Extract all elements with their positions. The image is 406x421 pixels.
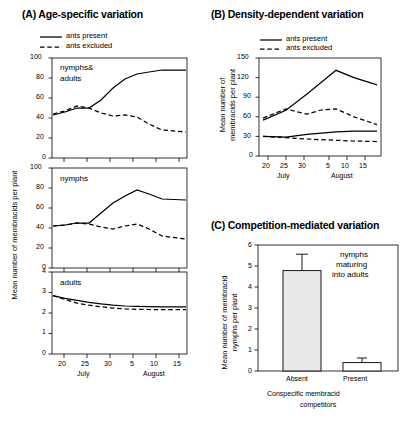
legend-dashed-swatch-b (260, 45, 282, 54)
xlabel-c-line1: Conspecific membracid (267, 390, 340, 397)
panel-a-subplot-nymphs: 100 80 60 40 20 0 nymphs (52, 168, 187, 273)
legend-label-ants-excluded: ants excluded (66, 41, 112, 50)
plot-a2 (52, 168, 187, 273)
xlabel-a-august: August (143, 370, 165, 377)
ytick-c-0: 0 (248, 367, 252, 374)
panel-a-ylabel: Mean number of membracids per plant (10, 115, 20, 355)
series-ants-present-a3 (53, 296, 186, 307)
ytick-a2-80: 80 (36, 183, 44, 190)
panel-c-plot-wrap: 6 5 4 3 2 1 0 nymphs maturing into adult… (258, 245, 398, 380)
xtick-a-25: 25 (81, 360, 89, 367)
series-ants-excluded-a2 (53, 223, 186, 239)
series-high-density-ants-excluded (263, 109, 377, 125)
xtick-b-30: 30 (298, 162, 306, 169)
xtick-a-10: 10 (150, 360, 158, 367)
series-low-density-ants-excluded (263, 136, 377, 141)
legend-solid-swatch (40, 33, 62, 42)
ytick-a1-60: 60 (36, 93, 44, 100)
panel-b-plot-wrap: 150 120 90 60 30 0 20 25 30 5 10 15 July… (259, 58, 381, 163)
xlabel-a-july: July (77, 370, 89, 377)
xtick-c-present: Present (343, 375, 367, 382)
ytick-a2-20: 20 (36, 243, 44, 250)
xtick-a-15: 15 (173, 360, 181, 367)
ytick-a1-100: 100 (30, 53, 42, 60)
ytick-b-90: 90 (243, 92, 251, 99)
panel-c-ylabel-line2: nymphs per plant (230, 265, 240, 380)
ytick-c-6: 6 (248, 241, 252, 248)
annotation-c-line1: nymphs (340, 250, 368, 260)
ytick-a3-0: 0 (42, 349, 46, 356)
annotation-c-line3: into adults (332, 270, 368, 280)
errorbar-present (357, 358, 367, 363)
series-high-density-ants-present (263, 70, 377, 120)
panel-a: (A) Age-specific variation ants present … (0, 0, 206, 421)
panel-b-ylabel-line1: Mean number of (218, 50, 228, 160)
plot-c (258, 245, 398, 380)
panel-c-title: (C) Competition-mediated variation (211, 219, 379, 231)
plot-a3 (52, 272, 187, 377)
xlabel-b-august: August (331, 172, 353, 179)
panel-a-subplot-adults: 4 3 2 1 0 adults 20 25 30 5 10 15 July A… (52, 272, 187, 377)
xtick-b-5: 5 (326, 162, 330, 169)
series-ants-present-a2 (53, 190, 186, 226)
panel-a-subplot-nymphs-adults: 100 80 60 40 20 0 nymphs& adults (52, 58, 187, 163)
bar-absent (283, 271, 321, 371)
xlabel-b-july: July (277, 172, 289, 179)
ytick-a2-60: 60 (36, 203, 44, 210)
xtick-a-5: 5 (130, 360, 134, 367)
annotation-a1-line2: adults (60, 74, 81, 84)
series-ants-excluded-a3 (53, 296, 186, 310)
ytick-a1-40: 40 (36, 113, 44, 120)
xlabel-c-line2: competitors (300, 401, 336, 408)
errorbar-absent (296, 254, 308, 270)
annotation-a3: adults (60, 278, 81, 288)
ytick-c-3: 3 (248, 304, 252, 311)
ytick-c-1: 1 (248, 346, 252, 353)
ytick-c-2: 2 (248, 325, 252, 332)
bar-present (343, 363, 381, 371)
annotation-a2: nymphs (60, 174, 88, 184)
ytick-b-60: 60 (243, 112, 251, 119)
ytick-a2-100: 100 (30, 163, 42, 170)
legend-dashed-swatch (40, 43, 62, 52)
panel-b-title: (B) Density-dependent variation (211, 8, 364, 20)
xtick-b-10: 10 (341, 162, 349, 169)
legend-label-ants-excluded-b: ants excluded (286, 43, 332, 52)
ytick-b-150: 150 (237, 53, 249, 60)
ytick-a3-4: 4 (42, 267, 46, 274)
ytick-a1-20: 20 (36, 133, 44, 140)
panel-c-ylabel-line1: Mean number of membracid (220, 250, 230, 395)
legend-solid-swatch-b (260, 36, 282, 45)
xtick-b-20: 20 (262, 162, 270, 169)
panel-c: (C) Competition-mediated variation Mean … (206, 205, 406, 421)
ytick-b-120: 120 (237, 73, 249, 80)
panel-b: (B) Density-dependent variation ants pre… (206, 0, 406, 205)
series-low-density-ants-present (263, 131, 377, 137)
xtick-b-15: 15 (359, 162, 367, 169)
ytick-c-4: 4 (248, 283, 252, 290)
ytick-a3-2: 2 (42, 308, 46, 315)
xtick-a-20: 20 (58, 360, 66, 367)
legend-label-ants-present: ants present (66, 31, 107, 40)
ytick-b-30: 30 (243, 132, 251, 139)
ytick-a3-3: 3 (42, 287, 46, 294)
ytick-a1-80: 80 (36, 73, 44, 80)
annotation-c-line2: maturing (336, 260, 367, 270)
annotation-a1-line1: nymphs& (60, 63, 93, 73)
ytick-a3-1: 1 (42, 328, 46, 335)
plot-b (259, 58, 381, 163)
panel-a-title: (A) Age-specific variation (22, 8, 143, 20)
legend-label-ants-present-b: ants present (286, 34, 327, 43)
ytick-b-0: 0 (249, 151, 253, 158)
xtick-c-absent: Absent (286, 375, 308, 382)
ytick-a1-0: 0 (42, 153, 46, 160)
ytick-a2-40: 40 (36, 223, 44, 230)
xtick-a-30: 30 (104, 360, 112, 367)
xtick-b-25: 25 (280, 162, 288, 169)
ytick-c-5: 5 (248, 262, 252, 269)
